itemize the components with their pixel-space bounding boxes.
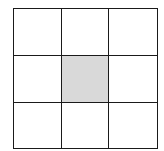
grid-cell-r2-c3 [109, 56, 157, 103]
grid-cell-r1-c1 [14, 9, 62, 56]
grid-cell-r3-c3 [109, 103, 157, 148]
grid-cell-r2-c2-shaded [62, 56, 109, 103]
grid-cell-r1-c2 [62, 9, 109, 56]
grid-cell-r3-c2 [62, 103, 109, 148]
grid-cell-r2-c1 [14, 56, 62, 103]
three-by-three-grid [13, 8, 158, 149]
grid-cell-r1-c3 [109, 9, 157, 56]
grid-cell-r3-c1 [14, 103, 62, 148]
